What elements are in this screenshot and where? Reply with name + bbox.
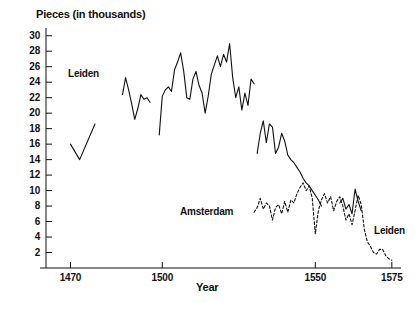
y-tick-label-20: 20 xyxy=(22,107,40,118)
y-tick-label-28: 28 xyxy=(22,45,40,56)
axis-lines xyxy=(40,28,401,268)
data-series-layer xyxy=(70,43,391,260)
series-amsterdam-segment-0 xyxy=(254,183,392,260)
series-label-leiden-right: Leiden xyxy=(374,225,405,236)
y-tick-label-30: 30 xyxy=(22,30,40,41)
y-tick-label-2: 2 xyxy=(22,247,40,258)
series-leiden-segment-2 xyxy=(159,43,254,134)
series-label-amsterdam: Amsterdam xyxy=(180,206,233,217)
y-tick-label-6: 6 xyxy=(22,216,40,227)
y-axis-title: Pieces (in thousands) xyxy=(36,8,146,20)
y-axis-ticks xyxy=(46,36,52,253)
series-leiden-segment-3 xyxy=(257,121,321,206)
y-tick-label-26: 26 xyxy=(22,61,40,72)
series-leiden-segment-0 xyxy=(70,124,94,160)
x-tick-label-1550: 1550 xyxy=(295,272,335,283)
y-tick-label-14: 14 xyxy=(22,154,40,165)
y-tick-label-8: 8 xyxy=(22,200,40,211)
series-label-leiden-left: Leiden xyxy=(68,68,99,79)
y-tick-label-12: 12 xyxy=(22,169,40,180)
y-tick-label-22: 22 xyxy=(22,92,40,103)
x-tick-label-1575: 1575 xyxy=(372,272,412,283)
chart-plot-area xyxy=(0,0,419,309)
y-tick-label-24: 24 xyxy=(22,76,40,87)
x-axis-title: Year xyxy=(196,281,218,293)
x-tick-label-1470: 1470 xyxy=(50,272,90,283)
y-tick-label-4: 4 xyxy=(22,231,40,242)
x-axis-ticks xyxy=(70,262,391,268)
series-leiden-segment-4 xyxy=(340,189,361,214)
y-tick-label-18: 18 xyxy=(22,123,40,134)
y-tick-label-16: 16 xyxy=(22,138,40,149)
y-tick-label-10: 10 xyxy=(22,185,40,196)
chart-container: Pieces (in thousands) Year Leiden Leiden… xyxy=(0,0,419,309)
x-tick-label-1500: 1500 xyxy=(142,272,182,283)
series-leiden-segment-1 xyxy=(123,78,151,120)
